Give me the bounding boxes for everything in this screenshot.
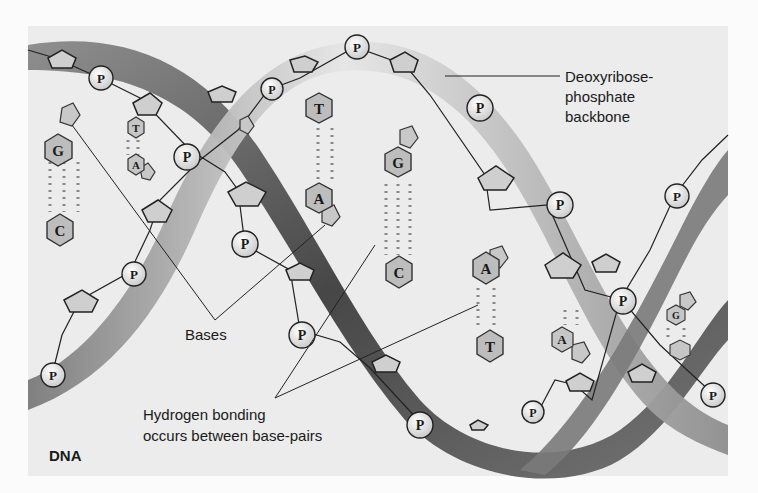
- svg-text:phosphate: phosphate: [565, 88, 635, 105]
- phosphate: P: [610, 288, 636, 314]
- phosphate: P: [41, 363, 65, 387]
- base-A-1: A: [128, 154, 144, 175]
- base-C-1: C: [47, 214, 73, 246]
- phosphate: P: [232, 231, 258, 257]
- phosphate: P: [289, 322, 315, 348]
- svg-text:G: G: [392, 155, 404, 171]
- base-C-2: C: [386, 256, 412, 288]
- phosphate: P: [122, 262, 146, 286]
- svg-text:P: P: [476, 101, 485, 116]
- phosphate: P: [665, 184, 689, 208]
- svg-text:A: A: [481, 261, 492, 277]
- base-A-2: A: [306, 183, 332, 213]
- svg-text:G: G: [672, 310, 680, 321]
- bases-label: Bases: [185, 326, 227, 343]
- svg-text:P: P: [416, 418, 425, 433]
- svg-text:G: G: [52, 143, 64, 159]
- svg-text:P: P: [709, 388, 717, 403]
- base-A-4: A: [552, 327, 573, 352]
- svg-text:A: A: [314, 191, 325, 207]
- phosphate: P: [174, 144, 200, 170]
- svg-text:P: P: [529, 406, 536, 420]
- svg-text:C: C: [394, 265, 405, 281]
- svg-text:P: P: [241, 237, 250, 252]
- svg-text:P: P: [183, 150, 192, 165]
- svg-text:A: A: [132, 159, 140, 171]
- svg-text:P: P: [268, 83, 275, 97]
- svg-text:backbone: backbone: [565, 108, 630, 125]
- base-T-2: T: [306, 93, 332, 123]
- phosphate: P: [522, 401, 544, 423]
- svg-text:C: C: [55, 223, 66, 239]
- dna-diagram: G C T A T A G C: [0, 0, 758, 493]
- svg-text:P: P: [673, 189, 681, 204]
- svg-text:P: P: [49, 368, 57, 383]
- svg-text:Deoxyribose-: Deoxyribose-: [565, 68, 653, 85]
- svg-text:P: P: [619, 294, 628, 309]
- base-T-3: T: [477, 330, 503, 362]
- phosphate: P: [261, 78, 283, 100]
- figure-title: DNA: [49, 447, 82, 464]
- base-G-2: G: [385, 147, 411, 177]
- svg-text:P: P: [97, 71, 105, 86]
- svg-text:occurs between base-pairs: occurs between base-pairs: [143, 427, 322, 444]
- phosphate: P: [467, 95, 493, 121]
- svg-text:P: P: [353, 40, 361, 55]
- svg-text:T: T: [485, 339, 495, 355]
- base-G-3: G: [667, 305, 685, 325]
- svg-text:Hydrogen bonding: Hydrogen bonding: [143, 406, 266, 423]
- svg-text:T: T: [314, 101, 324, 117]
- phosphate: P: [407, 412, 433, 438]
- svg-text:P: P: [556, 198, 565, 213]
- svg-text:A: A: [557, 332, 567, 347]
- base-T-1: T: [128, 117, 144, 138]
- svg-text:T: T: [132, 122, 140, 134]
- base-partial: [670, 340, 690, 360]
- phosphate: P: [89, 66, 113, 90]
- phosphate: P: [547, 192, 573, 218]
- svg-text:P: P: [130, 267, 138, 282]
- phosphate: P: [345, 35, 369, 59]
- phosphate: P: [701, 383, 725, 407]
- svg-text:P: P: [298, 328, 307, 343]
- base-A-3: A: [473, 252, 499, 284]
